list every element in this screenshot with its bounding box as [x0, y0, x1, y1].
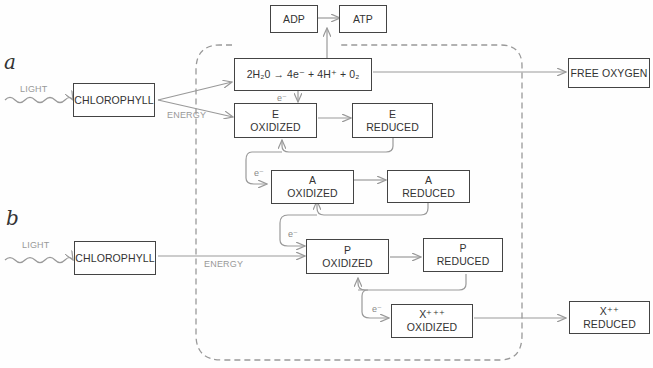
- atp-box: ATP: [339, 5, 387, 33]
- p-reduced-state: REDUCED: [437, 255, 490, 268]
- adp-text: ADP: [283, 13, 305, 26]
- e-oxidized-box: E OXIDIZED: [234, 103, 317, 138]
- electron-label: e⁻: [372, 304, 382, 314]
- membrane-boundary: [196, 45, 522, 360]
- chlorophyll-box-b: CHLOROPHYLL: [74, 241, 156, 275]
- energy-label-b: ENERGY: [204, 259, 243, 269]
- e-reduced-return: [282, 138, 393, 152]
- x-oxidized-box: X⁺⁺⁺ OXIDIZED: [391, 304, 473, 338]
- p-oxidized-state: OXIDIZED: [322, 257, 372, 270]
- e-reduced-state: REDUCED: [366, 121, 419, 134]
- electron-label: e⁻: [277, 93, 287, 103]
- light-wave-a: [5, 98, 73, 103]
- x-reduced-name: X⁺⁺: [600, 305, 619, 318]
- light-label-a: LIGHT: [20, 84, 48, 94]
- water-splitting-equation: 2H₂0 → 4e⁻ + 4H⁺ + 0₂: [247, 68, 360, 81]
- electron-label: e⁻: [254, 168, 264, 178]
- a-oxidized-name: A: [309, 174, 316, 187]
- p-oxidized-name: P: [344, 244, 351, 257]
- energy-label-a: ENERGY: [167, 110, 206, 120]
- e-oxidized-name: E: [272, 108, 279, 121]
- x-oxidized-state: OXIDIZED: [407, 321, 457, 334]
- adp-box: ADP: [270, 5, 318, 33]
- chlorophyll-text-b: CHLOROPHYLL: [75, 252, 154, 265]
- light-wave-b: [5, 258, 73, 263]
- light-label-b: LIGHT: [22, 240, 50, 250]
- electron-label: e⁻: [288, 229, 298, 239]
- a-reduced-state: REDUCED: [402, 187, 455, 200]
- energy-to-water-a: [158, 82, 232, 100]
- e-reduced-name: E: [389, 108, 396, 121]
- p-reduced-return: [358, 274, 466, 290]
- a-reduced-box: A REDUCED: [387, 170, 470, 203]
- chlorophyll-text-a: CHLOROPHYLL: [74, 94, 153, 107]
- atp-text: ATP: [353, 13, 373, 26]
- x-reduced-box: X⁺⁺ REDUCED: [569, 301, 650, 334]
- panel-label-a: a: [4, 50, 16, 74]
- e-oxidized-state: OXIDIZED: [250, 121, 300, 134]
- p-reduced-name: P: [459, 242, 466, 255]
- a-oxidized-state: OXIDIZED: [287, 187, 337, 200]
- free-oxygen-box: FREE OXYGEN: [568, 58, 650, 88]
- a-oxidized-box: A OXIDIZED: [271, 170, 354, 204]
- x-reduced-state: REDUCED: [583, 318, 636, 331]
- chlorophyll-box-a: CHLOROPHYLL: [73, 83, 155, 117]
- a-reduced-name: A: [425, 174, 432, 187]
- free-oxygen-text: FREE OXYGEN: [571, 67, 648, 80]
- p-reduced-box: P REDUCED: [423, 238, 503, 272]
- e-reduced-box: E REDUCED: [352, 103, 433, 138]
- photosynthesis-diagram: a b LIGHT CHLOROPHYLL ENERGY ADP ATP 2H₂…: [0, 0, 653, 368]
- panel-label-b: b: [6, 206, 19, 230]
- x-oxidized-name: X⁺⁺⁺: [419, 308, 444, 321]
- p-oxidized-box: P OXIDIZED: [306, 239, 389, 274]
- water-splitting-box: 2H₂0 → 4e⁻ + 4H⁺ + 0₂: [234, 58, 372, 91]
